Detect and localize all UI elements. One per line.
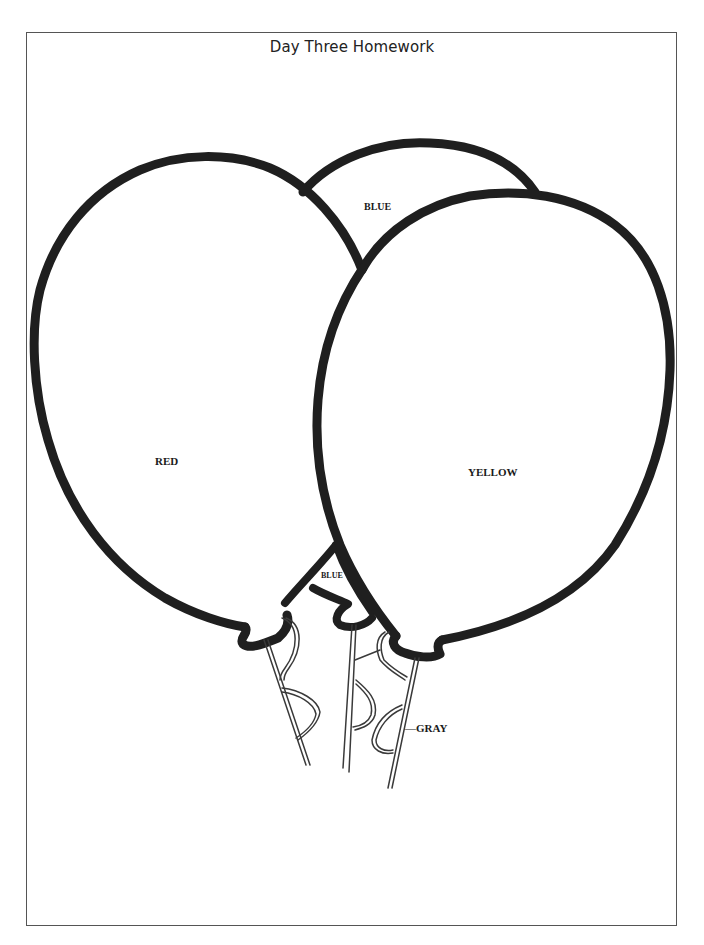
blue-small-balloon-label: BLUE: [321, 571, 343, 580]
yellow-balloon-label: YELLOW: [468, 466, 518, 478]
blue-back-balloon-label: BLUE: [364, 201, 391, 212]
blue-back-balloon-outline: [303, 143, 535, 192]
balloons-drawing: [0, 0, 704, 945]
red-balloon-label: RED: [155, 455, 178, 467]
strings-gray-label: —GRAY: [405, 722, 447, 734]
yellow-balloon-outline: [317, 193, 670, 657]
